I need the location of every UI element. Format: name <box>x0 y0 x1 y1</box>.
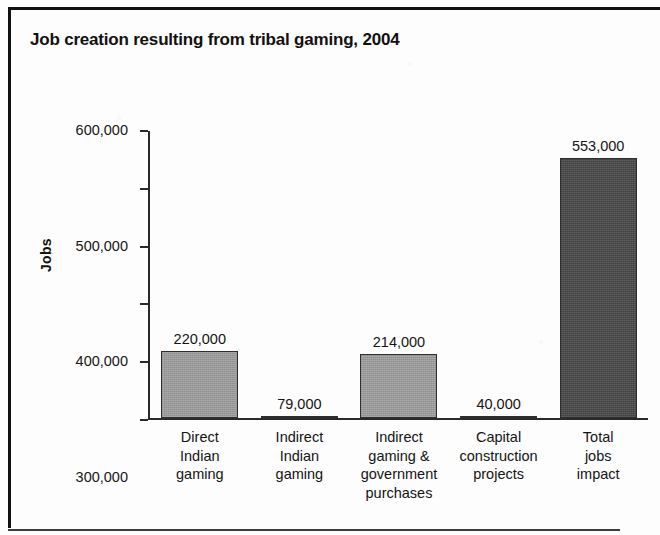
x-axis-category-label: Totaljobsimpact <box>548 428 648 484</box>
bar[interactable] <box>460 416 537 418</box>
page-border-left <box>8 7 11 528</box>
category-label-line: gaming & <box>349 447 449 466</box>
bar-value-label: 220,000 <box>174 331 226 347</box>
y-axis-tick: 200,000 <box>140 361 148 363</box>
category-label-line: purchases <box>349 484 449 503</box>
bar[interactable] <box>261 416 338 418</box>
page-border-bottom <box>8 529 620 531</box>
bar-slot: 220,000 <box>150 131 250 418</box>
y-axis-tick: 500,000 <box>140 188 148 190</box>
bar-slot: 40,000 <box>449 131 549 418</box>
category-label-line: construction <box>449 447 549 466</box>
category-label-line: gaming <box>250 465 350 484</box>
bar-value-label: 553,000 <box>572 138 624 154</box>
plot-area: 600,000500,000400,000300,000200,000100,0… <box>148 131 648 420</box>
category-label-line: Indian <box>150 447 250 466</box>
y-axis-tick: 400,000 <box>140 246 148 248</box>
category-label-line: Capital <box>449 428 549 447</box>
category-label-line: jobs <box>548 447 648 466</box>
x-axis-line <box>148 418 648 420</box>
bar-series: 220,00079,000214,00040,000553,000 <box>150 131 648 418</box>
category-label-line: Indirect <box>250 428 350 447</box>
category-label-line: impact <box>548 465 648 484</box>
bar-slot: 79,000 <box>250 131 350 418</box>
category-label-line: gaming <box>150 465 250 484</box>
y-axis-tick: 600,000 <box>140 130 148 132</box>
category-label-line: Direct <box>150 428 250 447</box>
x-axis-category-label: Capitalconstructionprojects <box>449 428 549 484</box>
y-axis-tick: 100,000 <box>140 419 148 421</box>
category-label-line: Indian <box>250 447 350 466</box>
chart-title: Job creation resulting from tribal gamin… <box>30 30 399 50</box>
x-axis-category-label: Indirectgaming &governmentpurchases <box>349 428 449 502</box>
page-border-top <box>8 7 660 10</box>
category-label-line: Total <box>548 428 648 447</box>
bar-value-label: 40,000 <box>476 396 520 412</box>
x-axis-category-label: IndirectIndiangaming <box>250 428 350 484</box>
y-axis-tick: 300,000 <box>140 303 148 305</box>
y-axis-tick-label: 400,000 <box>76 353 128 369</box>
y-axis-tick-label: 500,000 <box>76 238 128 254</box>
bar-value-label: 214,000 <box>373 334 425 350</box>
x-axis-category-labels: DirectIndiangamingIndirectIndiangamingIn… <box>150 428 648 528</box>
bar[interactable] <box>560 158 637 418</box>
bar[interactable] <box>161 351 238 418</box>
category-label-line: government <box>349 465 449 484</box>
category-label-line: Indirect <box>349 428 449 447</box>
y-axis-tick-label: 300,000 <box>76 469 128 485</box>
bar-slot: 553,000 <box>548 131 648 418</box>
bar-slot: 214,000 <box>349 131 449 418</box>
y-axis-tick-label: 600,000 <box>76 122 128 138</box>
category-label-line: projects <box>449 465 549 484</box>
bar-value-label: 79,000 <box>277 396 321 412</box>
bar[interactable] <box>360 354 437 418</box>
x-axis-category-label: DirectIndiangaming <box>150 428 250 484</box>
y-axis-title: Jobs <box>38 238 54 272</box>
